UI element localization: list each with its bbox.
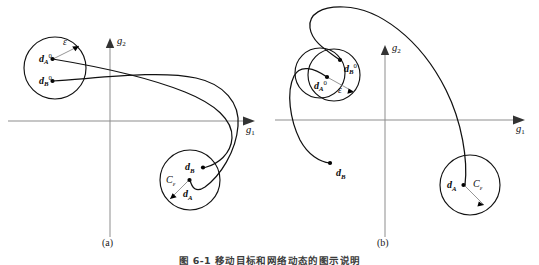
label-dB0-b: dB0: [344, 63, 357, 76]
panel-a-graphics: [0, 0, 270, 265]
figure-caption: 图 6-1 移动目标和网络动态的图示说明: [0, 253, 539, 265]
trajectory-b-1: [310, 7, 466, 185]
y-axis-label-a: g2: [117, 36, 126, 48]
label-dB0-a: dB0: [39, 75, 52, 88]
panel-b-graphics: [270, 0, 539, 265]
ceps-radius-arrowhead-a: [170, 193, 177, 199]
label-dA0-b: dA0: [314, 80, 327, 93]
label-Ceps-b: Cε: [473, 179, 482, 191]
label-dA-b: dA: [447, 180, 457, 192]
label-dA0-a: dA0: [39, 53, 52, 66]
y-axis-arrowhead-b: [381, 45, 389, 55]
label-dB-b: dB: [336, 168, 346, 180]
epsilon-label-a: ε: [63, 38, 67, 48]
epsilon-label-b: ε: [338, 86, 342, 96]
label-Ceps-a: Cε: [166, 175, 175, 187]
ball-upper-left-a: [24, 37, 86, 99]
y-axis-arrowhead-a: [106, 38, 114, 48]
axes-a: [8, 38, 255, 237]
axes-b: [275, 45, 525, 237]
x-axis-label-b: g1: [516, 124, 525, 136]
panel-b: g2 g1 dB0 dA0 ε dB dA Cε (b): [270, 0, 539, 265]
panel-a: g2 g1 ε dA0 dB0 dB Cε dA (a): [0, 0, 270, 265]
label-dA-a: dA: [183, 189, 193, 201]
sub-caption-a: (a): [102, 238, 113, 248]
label-dB-a: dB: [185, 162, 195, 174]
x-axis-label-a: g1: [246, 125, 255, 137]
figure-caption-strip: 图 6-1 移动目标和网络动态的图示说明: [0, 252, 539, 265]
trajectory-a-2: [53, 75, 239, 190]
y-axis-label-b: g2: [392, 43, 401, 55]
sub-caption-b: (b): [377, 238, 389, 248]
figure-root: g2 g1 ε dA0 dB0 dB Cε dA (a): [0, 0, 539, 265]
